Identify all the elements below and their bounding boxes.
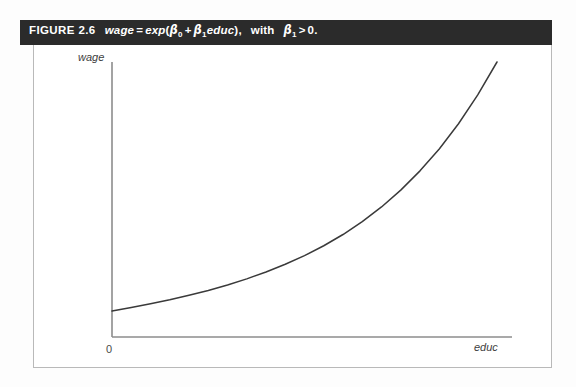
caption-plus: +	[183, 24, 194, 36]
caption-dependent-var: wage	[105, 24, 135, 36]
figure-number-label: FIGURE 2.6	[29, 24, 96, 36]
caption-beta-one: β	[194, 23, 202, 37]
x-axis-label-educ: educ	[474, 341, 498, 353]
caption-greater-than: >	[297, 24, 308, 36]
caption-comma: ,	[238, 24, 241, 36]
figure-caption-bar: FIGURE 2.6wage=exp(β0+β1educ),withβ1>0.	[20, 20, 552, 45]
caption-subscript-one-condition: 1	[292, 31, 297, 40]
y-axis-label-wage: wage	[78, 51, 104, 63]
exponential-curve	[112, 62, 497, 311]
caption-beta-zero: β	[170, 23, 178, 37]
caption-function-exp: exp	[145, 24, 165, 36]
caption-beta-one-condition: β	[284, 23, 292, 37]
caption-with-word: with	[251, 24, 275, 36]
caption-subscript-zero: 0	[178, 31, 183, 40]
caption-period: .	[314, 24, 317, 36]
origin-label-zero: 0	[106, 343, 112, 355]
figure-caption-text: FIGURE 2.6wage=exp(β0+β1educ),withβ1>0.	[20, 25, 318, 39]
exponential-wage-curve-plot	[33, 45, 552, 368]
figure-root: FIGURE 2.6wage=exp(β0+β1educ),withβ1>0. …	[0, 0, 576, 387]
caption-independent-var: educ	[207, 24, 235, 36]
plot-area: wage educ 0	[33, 45, 552, 368]
caption-equals: =	[134, 24, 145, 36]
